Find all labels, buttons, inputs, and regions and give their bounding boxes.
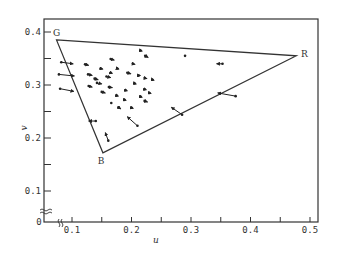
svg-text:R: R [301, 49, 308, 59]
svg-text:0.4: 0.4 [25, 27, 41, 37]
y-axis: 0.10.20.30.4 [25, 27, 51, 196]
origin-label: 0 [36, 217, 41, 227]
svg-text:0.1: 0.1 [25, 186, 41, 196]
plot-frame [44, 19, 318, 222]
svg-text:G: G [53, 28, 60, 38]
svg-text:0.4: 0.4 [242, 225, 258, 235]
y-axis-label: v [19, 125, 29, 130]
shift-vectors [58, 49, 237, 142]
chromaticity-chart: 0.10.20.30.40.5 0.10.20.30.4 GRB u v 0 [0, 0, 337, 261]
x-axis-label: u [153, 235, 159, 245]
color-triangle: GRB [53, 28, 308, 166]
svg-text:0.2: 0.2 [123, 225, 139, 235]
svg-text:0.3: 0.3 [183, 225, 199, 235]
svg-text:0.5: 0.5 [302, 225, 318, 235]
x-axis: 0.10.20.30.40.5 [64, 217, 318, 235]
svg-text:0.3: 0.3 [25, 80, 41, 90]
svg-text:B: B [98, 156, 105, 166]
svg-text:0.1: 0.1 [64, 225, 80, 235]
svg-text:0.2: 0.2 [25, 133, 41, 143]
